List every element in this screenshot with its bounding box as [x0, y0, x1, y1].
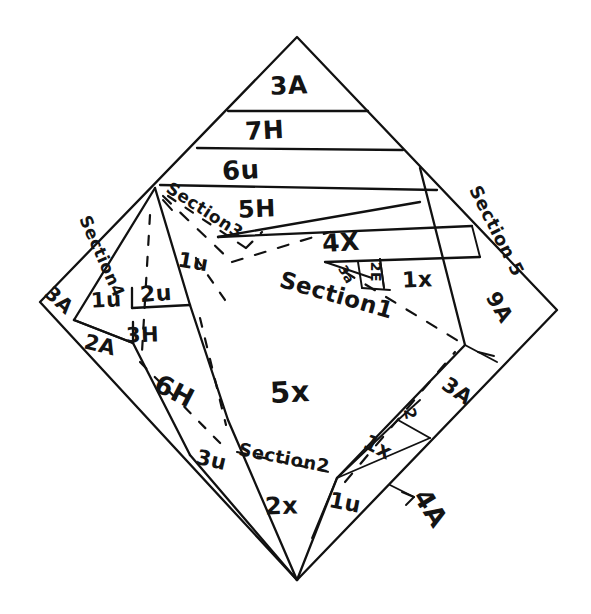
divider-4x-lower	[325, 257, 480, 262]
label-cell-2e: 2E	[369, 262, 383, 282]
label-band-4x: 4X	[321, 229, 360, 257]
label-section3-value: 1u	[176, 250, 210, 276]
label-cell-1u: 1u	[90, 289, 122, 312]
label-band-7h: 7H	[244, 117, 285, 144]
section5-left-boundary	[420, 168, 465, 345]
label-band-6u: 6u	[221, 156, 260, 184]
label-cell-2x: 2x	[265, 493, 299, 518]
diagram-canvas: 3A 7H 6u 5H 4X Section3 1u Section4 3A 1…	[0, 0, 591, 614]
divider-4x-right-edge	[472, 226, 480, 257]
label-band-5h: 5H	[238, 196, 277, 221]
divider-6u-5h	[160, 185, 437, 190]
label-band-3a: 3A	[270, 72, 309, 98]
label-cell-2u: 2u	[139, 282, 172, 306]
label-cell-1u-bottom: 1u	[327, 489, 363, 517]
divider-7h-6u	[197, 148, 403, 150]
label-section1-value: 5x	[269, 377, 310, 408]
label-cell-3h: 3H	[126, 324, 160, 346]
cell-2-small-bottom	[398, 420, 430, 438]
label-cell-1x-upper: 1x	[401, 268, 433, 292]
left-cluster-triangle-down	[190, 305, 228, 420]
